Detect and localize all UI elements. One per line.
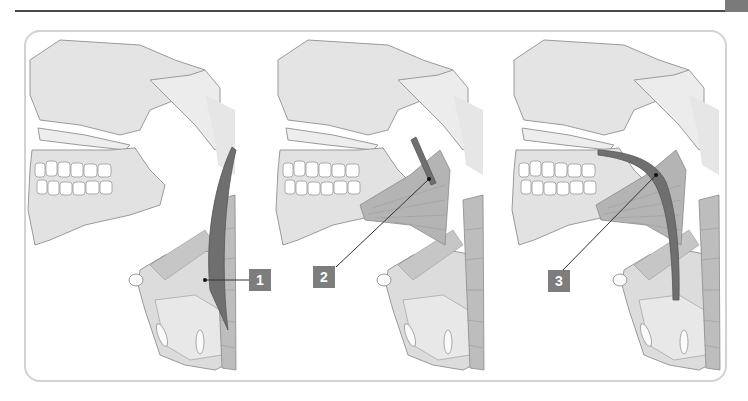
panel-3-illustration [512, 40, 720, 370]
anatomy-illustration [0, 0, 748, 401]
callout-badge-3: 3 [548, 270, 570, 292]
callout-badge-2: 2 [313, 266, 335, 288]
panel-2-illustration [276, 40, 484, 370]
panel-1-illustration [28, 40, 249, 370]
callout-badge-1: 1 [249, 269, 271, 291]
